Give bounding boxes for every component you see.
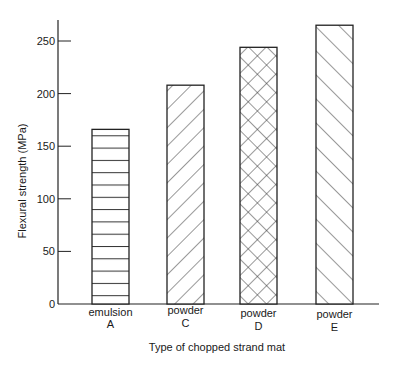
category-label-line1: powder [167,304,203,316]
category-label-line2: A [107,318,115,330]
bars [92,25,353,304]
y-tick-label: 150 [37,140,55,152]
bar-pattern [167,85,204,304]
y-tick-label: 250 [37,35,55,47]
category-label-line2: C [182,317,190,329]
category-label-line2: D [255,320,263,332]
y-tick-label: 200 [37,88,55,100]
category-label-line1: powder [240,307,276,319]
y-tick-label: 100 [37,193,55,205]
category-label-line1: emulsion [88,306,132,318]
y-axis-title: Flexural strength (MPa) [16,124,28,239]
category-labels: emulsionApowderCpowderDpowderE [88,304,352,333]
bar-pattern [92,129,129,304]
x-axis-title: Type of chopped strand mat [149,341,285,353]
y-tick-label: 50 [43,245,55,257]
bar-pattern [240,47,277,304]
category-label-line2: E [331,321,338,333]
category-label-line1: powder [316,308,352,320]
bar-chart: 050100150200250 emulsionApowderCpowderDp… [0,0,396,366]
bar-pattern [316,25,353,304]
y-tick-label: 0 [49,298,55,310]
y-axis: 050100150200250 [37,20,71,310]
